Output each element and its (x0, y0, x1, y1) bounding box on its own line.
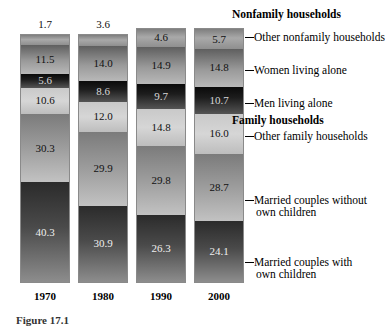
segment-married-without-1970: 30.3 (21, 114, 69, 183)
segment-value: 5.6 (38, 75, 52, 86)
segment-married-with-1990: 26.3 (137, 215, 185, 282)
segment-other-nonfamily-2000: 5.7 (195, 29, 243, 49)
segment-value: 12.0 (93, 111, 112, 122)
legend-label-married-with-line1: Married couples with (254, 256, 352, 268)
leader-line-married-with (245, 262, 254, 263)
leader-line-women-alone (245, 70, 254, 71)
leader-line-married-without (245, 200, 254, 201)
segment-women-alone-1980: 14.0 (79, 46, 127, 81)
leader-line-men-alone (245, 103, 254, 104)
year-label-1980: 1980 (78, 290, 128, 302)
segment-value: 8.6 (96, 86, 110, 97)
legend-heading-nonfamily: Nonfamily households (232, 8, 341, 20)
segment-value: 10.7 (209, 95, 228, 106)
legend-label-married-with-line2: own children (256, 268, 316, 280)
segment-value: 5.7 (212, 34, 226, 45)
leader-line-other-family (245, 136, 254, 137)
segment-value: 28.7 (209, 182, 228, 193)
segment-married-with-1970: 40.3 (21, 182, 69, 282)
segment-men-alone-1970: 5.6 (21, 74, 69, 88)
column-2000-bar: 5.7 14.8 10.7 16.0 28.7 24.1 (194, 28, 244, 283)
column-1980-top-value: 3.6 (78, 18, 128, 30)
segment-women-alone-1970: 11.5 (21, 45, 69, 73)
segment-other-nonfamily-1990: 4.6 (137, 29, 185, 47)
legend-label-married-without-line1: Married couples without (254, 194, 367, 206)
segment-married-without-2000: 28.7 (195, 154, 243, 221)
segment-value: 24.1 (209, 246, 228, 257)
segment-value: 14.8 (209, 62, 228, 73)
segment-value: 29.8 (151, 175, 170, 186)
segment-value: 10.6 (35, 95, 54, 106)
segment-value: 9.7 (154, 91, 168, 102)
segment-value: 14.0 (93, 58, 112, 69)
segment-women-alone-2000: 14.8 (195, 49, 243, 86)
segment-value: 14.9 (151, 60, 170, 71)
segment-married-without-1990: 29.8 (137, 146, 185, 215)
segment-married-with-1980: 30.9 (79, 206, 127, 282)
column-1990-bar: 4.6 14.9 9.7 14.8 29.8 26.3 (136, 28, 186, 283)
segment-men-alone-1990: 9.7 (137, 84, 185, 109)
segment-value: 30.9 (93, 238, 112, 249)
segment-other-family-1990: 14.8 (137, 109, 185, 146)
segment-other-nonfamily-1970 (21, 35, 69, 45)
segment-value: 14.8 (151, 122, 170, 133)
figure-caption: Figure 17.1 (16, 314, 69, 326)
leader-line-other-nonfamily (245, 37, 254, 38)
legend-label-other-nonfamily: Other nonfamily households (254, 31, 385, 43)
legend-label-women-alone: Women living alone (254, 64, 347, 76)
segment-other-family-1970: 10.6 (21, 88, 69, 114)
legend-heading-family: Family households (232, 114, 324, 126)
legend-label-men-alone: Men living alone (254, 97, 333, 109)
segment-value: 26.3 (151, 243, 170, 254)
segment-women-alone-1990: 14.9 (137, 47, 185, 85)
legend-label-married-without-line2: own children (256, 206, 316, 218)
segment-value: 11.5 (36, 54, 55, 65)
segment-men-alone-2000: 10.7 (195, 87, 243, 114)
segment-married-without-1980: 29.9 (79, 132, 127, 206)
segment-men-alone-1980: 8.6 (79, 81, 127, 102)
column-1980-bar: 14.0 8.6 12.0 29.9 30.9 (78, 34, 128, 283)
segment-other-family-1980: 12.0 (79, 102, 127, 132)
segment-value: 16.0 (209, 128, 228, 139)
column-1970-bar: 11.5 5.6 10.6 30.3 40.3 (20, 34, 70, 283)
year-label-1990: 1990 (136, 290, 186, 302)
year-label-2000: 2000 (194, 290, 244, 302)
segment-value: 30.3 (35, 143, 54, 154)
segment-value: 4.6 (154, 32, 168, 43)
segment-value: 29.9 (93, 163, 112, 174)
segment-other-nonfamily-1980 (79, 35, 127, 46)
year-label-1970: 1970 (20, 290, 70, 302)
column-1970-top-value: 1.7 (20, 18, 70, 30)
segment-married-with-2000: 24.1 (195, 221, 243, 282)
segment-value: 40.3 (35, 227, 54, 238)
legend-label-other-family: Other family households (254, 130, 368, 142)
